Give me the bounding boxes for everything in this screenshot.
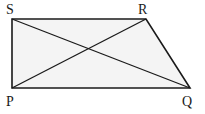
vertex-label-p: P [6,94,14,109]
vertex-label-r: R [138,2,148,17]
trapezium-diagram: S R P Q [0,0,205,114]
vertex-label-q: Q [182,94,192,109]
vertex-label-s: S [6,2,14,17]
